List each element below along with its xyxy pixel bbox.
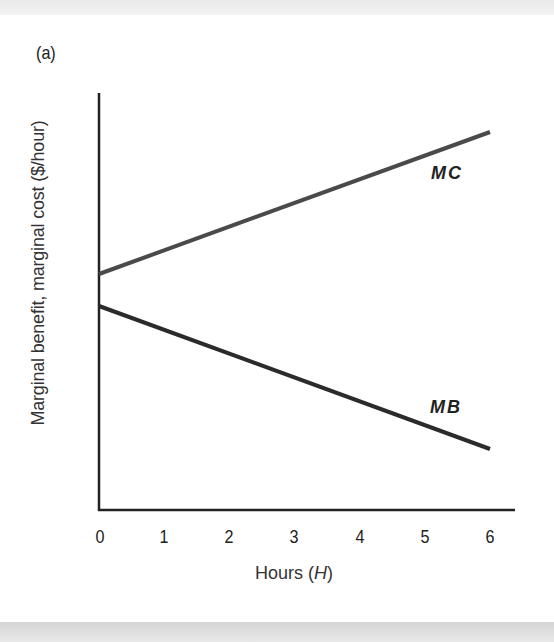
x-tick-1: 1 <box>160 526 169 548</box>
bottom-border-band <box>0 622 554 642</box>
mc-label: MC <box>431 163 463 184</box>
x-tick-6: 6 <box>486 526 495 548</box>
plot-area <box>0 0 554 642</box>
mb-label: MB <box>430 397 462 418</box>
x-tick-4: 4 <box>356 526 365 548</box>
mb-line <box>99 306 490 449</box>
x-axis-label: Hours (H) <box>255 563 333 584</box>
x-axis-label-var: H <box>314 563 327 583</box>
x-tick-2: 2 <box>225 526 234 548</box>
x-tick-3: 3 <box>290 526 299 548</box>
x-axis-label-prefix: Hours ( <box>255 563 314 583</box>
x-tick-0: 0 <box>96 526 105 548</box>
mc-line <box>99 132 490 274</box>
x-axis-label-suffix: ) <box>327 563 333 583</box>
x-tick-5: 5 <box>421 526 430 548</box>
